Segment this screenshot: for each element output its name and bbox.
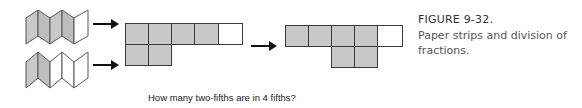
grid-cell-shaded	[354, 46, 378, 68]
grid-cell-shaded	[125, 23, 149, 45]
grid-cell-shaded	[285, 25, 309, 47]
figure-caption-question: How many two-fifths are in 4 fifths?	[148, 92, 296, 103]
figure-description: Paper strips and division of fractions.	[418, 28, 578, 58]
grid-cell-shaded	[194, 23, 219, 45]
grid-cell-shaded	[354, 25, 378, 47]
grid-cell-shaded	[148, 23, 172, 45]
grid-cell-shaded	[171, 23, 195, 45]
grid-cell-shaded	[331, 25, 355, 47]
arrow-right-icon	[251, 45, 275, 47]
folded-strip-four-fifths	[24, 8, 92, 46]
grid-cell-shaded	[148, 44, 172, 66]
grid-cell-shaded	[125, 44, 149, 66]
grid-cell-shaded	[331, 46, 355, 68]
arrow-right-icon	[93, 23, 117, 25]
figure-title: FIGURE 9-32.	[418, 13, 493, 26]
folded-strip-two-fifths	[24, 50, 92, 90]
grid-cell-empty	[218, 23, 243, 45]
grid-cell-empty	[377, 25, 403, 47]
arrow-right-icon	[93, 64, 117, 66]
grid-cell-shaded	[308, 25, 332, 47]
